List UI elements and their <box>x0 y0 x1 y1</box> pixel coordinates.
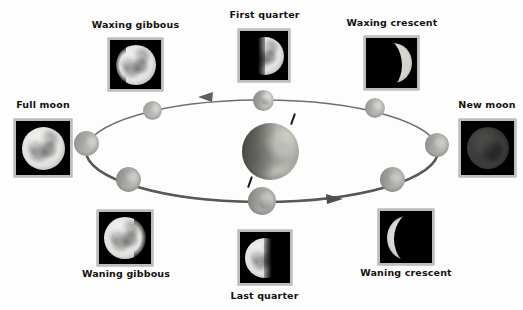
photo-waxing-gibbous <box>108 38 163 91</box>
photo-full-moon <box>14 119 72 177</box>
earth-body <box>242 123 299 180</box>
moon-disc-full-moon <box>22 127 65 170</box>
orbit-moon-top <box>253 90 274 111</box>
orbit-moon-lower-right <box>380 167 405 192</box>
label-new-moon: New moon <box>452 99 522 110</box>
orbit-arrow-left-icon <box>198 92 213 102</box>
label-last-quarter: Last quarter <box>212 290 317 301</box>
label-waxing-crescent: Waxing crescent <box>338 17 446 28</box>
orbit-moon-upper-right <box>365 98 385 118</box>
photo-new-moon <box>459 119 516 177</box>
photo-waxing-crescent <box>364 36 419 90</box>
orbit-arrow-right-icon <box>326 194 343 204</box>
photo-waning-gibbous <box>97 210 153 266</box>
orbit-moon-bottom <box>248 187 276 215</box>
orbit-moon-left <box>74 131 99 156</box>
photo-last-quarter <box>238 230 292 285</box>
label-waning-crescent: Waning crescent <box>352 267 460 278</box>
orbit-moon-right <box>425 133 449 157</box>
terminator-shadow-last-quarter <box>264 232 290 285</box>
moon-disc-new-moon <box>467 127 509 169</box>
label-waxing-gibbous: Waxing gibbous <box>83 19 188 30</box>
terminator-shadow-waxing-gibbous <box>112 43 126 87</box>
orbit-moon-lower-left <box>116 167 141 192</box>
photo-waning-crescent <box>378 209 434 265</box>
orbit-moon-upper-left <box>143 101 162 120</box>
label-waning-gibbous: Waning gibbous <box>72 268 180 279</box>
terminator-shadow-first-quarter <box>240 31 265 82</box>
photo-first-quarter <box>238 29 290 82</box>
label-first-quarter: First quarter <box>212 9 317 20</box>
moon-phases-diagram: Waxing gibbous First quarter Waxing cres… <box>0 0 523 310</box>
label-full-moon: Full moon <box>7 99 79 110</box>
terminator-shadow-waning-gibbous <box>134 214 149 262</box>
